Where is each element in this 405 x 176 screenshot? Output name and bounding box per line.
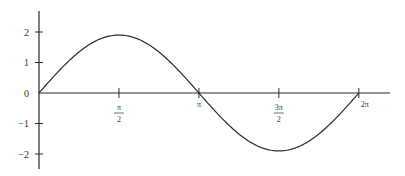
y-tick-label: −2 — [18, 149, 29, 160]
y-tick-label: 1 — [24, 57, 29, 68]
x-tick-label-denominator: 2 — [277, 115, 281, 124]
x-tick-label-numerator: 3π — [275, 103, 283, 112]
x-tick-label-denominator: 2 — [117, 115, 121, 124]
sine-chart: 210−1−2 π2π3π22π — [0, 0, 405, 176]
y-tick-label: 2 — [24, 27, 29, 38]
x-tick-label: 2π — [361, 100, 369, 109]
y-tick-label: 0 — [24, 88, 29, 99]
x-tick-label-numerator: π — [117, 103, 121, 112]
y-tick-label: −1 — [18, 118, 29, 129]
axes — [39, 11, 390, 169]
x-tick-label: π — [197, 100, 201, 109]
